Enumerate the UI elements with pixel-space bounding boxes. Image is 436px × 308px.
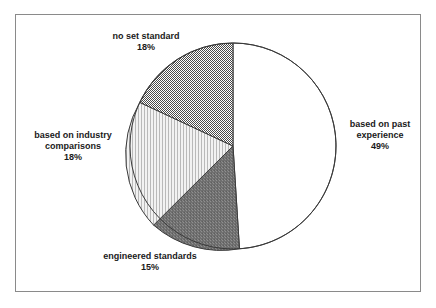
pie-slice-based-on-past-experience — [233, 43, 336, 249]
pie-label-no-set-standard-text: no set standard — [82, 31, 210, 42]
pie-label-based-on-industry-comparisons: based on industry comparisons 18% — [12, 130, 134, 163]
pie-label-based-on-past-experience-text-line1: based on past — [332, 119, 428, 130]
pie-label-based-on-industry-comparisons-value: 18% — [12, 152, 134, 163]
pie-chart-figure: no set standard 18% based on past experi… — [0, 0, 436, 308]
pie-label-engineered-standards: engineered standards 15% — [84, 251, 216, 273]
pie-label-based-on-past-experience-text-line2: experience — [332, 130, 428, 141]
pie-label-no-set-standard: no set standard 18% — [82, 31, 210, 53]
pie-label-engineered-standards-text: engineered standards — [84, 251, 216, 262]
pie-label-based-on-past-experience: based on past experience 49% — [332, 119, 428, 152]
pie-label-engineered-standards-value: 15% — [84, 262, 216, 273]
pie-label-based-on-industry-comparisons-text-line2: comparisons — [12, 141, 134, 152]
pie-label-based-on-past-experience-value: 49% — [332, 141, 428, 152]
pie-label-based-on-industry-comparisons-text-line1: based on industry — [12, 130, 134, 141]
pie-label-no-set-standard-value: 18% — [82, 42, 210, 53]
